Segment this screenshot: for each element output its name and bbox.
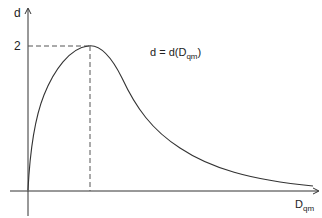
x-axis-label: Dqm: [295, 198, 314, 213]
curve-annotation: d = d(Dqm): [150, 46, 201, 61]
distribution-curve: [28, 46, 313, 190]
y-tick-peak: 2: [14, 39, 21, 53]
chart-canvas: d 2 d = d(Dqm) Dqm: [0, 0, 322, 218]
y-axis-label: d: [14, 6, 21, 20]
